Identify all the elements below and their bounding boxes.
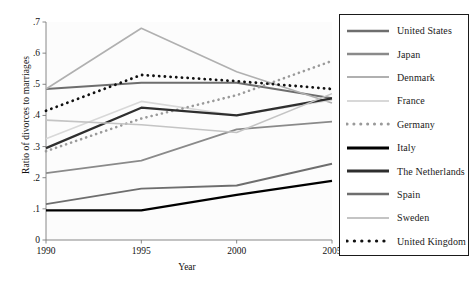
legend-line-swatch <box>346 235 390 247</box>
legend-item-label: Germany <box>397 119 435 130</box>
legend-line-swatch <box>346 118 390 130</box>
legend-box: United StatesJapanDenmarkFranceGermanyIt… <box>339 14 469 256</box>
legend-item-label: France <box>397 95 425 106</box>
legend-item-label: Japan <box>397 49 420 60</box>
legend-item[interactable]: Germany <box>340 113 468 136</box>
legend-line-swatch <box>346 48 390 60</box>
legend-item[interactable]: Spain <box>340 183 468 206</box>
legend-item[interactable]: Japan <box>340 42 468 65</box>
legend-item[interactable]: France <box>340 89 468 112</box>
y-tick-label: .1 <box>18 204 40 214</box>
legend-line-swatch <box>346 188 390 200</box>
legend-line-swatch <box>346 95 390 107</box>
x-tick-label: 1990 <box>26 246 66 256</box>
legend-line-swatch <box>346 165 390 177</box>
legend-item[interactable]: Italy <box>340 136 468 159</box>
legend-line-swatch <box>346 25 390 37</box>
legend-item[interactable]: United States <box>340 19 468 42</box>
legend-line-swatch <box>346 71 390 83</box>
x-axis-title: Year <box>42 262 332 272</box>
chart-figure: 0.1.2.3.4.5.6.7 1990199520002005 Ratio o… <box>0 0 476 283</box>
legend-line-swatch <box>346 142 390 154</box>
x-tick-label: 1995 <box>121 246 161 256</box>
legend-item-label: Sweden <box>397 212 429 223</box>
legend-item[interactable]: The Netherlands <box>340 159 468 182</box>
legend-item[interactable]: Sweden <box>340 206 468 229</box>
legend-line-swatch <box>346 212 390 224</box>
legend-item-label: Italy <box>397 142 416 153</box>
x-tick-label: 2000 <box>217 246 257 256</box>
legend-item[interactable]: Denmark <box>340 66 468 89</box>
legend-item-label: United Kingdom <box>397 236 466 247</box>
y-axis-title: Ratio of divorces to marriages <box>21 25 31 205</box>
legend-item-label: Denmark <box>397 72 435 83</box>
y-tick-label: 0 <box>18 235 40 245</box>
legend-item-label: Spain <box>397 189 420 200</box>
legend-item-label: The Netherlands <box>397 166 465 177</box>
legend-item[interactable]: United Kingdom <box>340 230 468 253</box>
legend-item-label: United States <box>397 25 452 36</box>
